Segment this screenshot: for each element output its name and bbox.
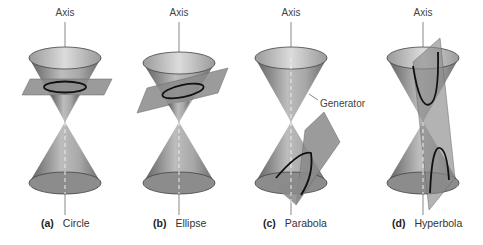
lower-rim: [29, 172, 101, 194]
panel-c-parabola: [255, 22, 340, 215]
axis-label-b: Axis: [170, 7, 189, 18]
panel-a-circle: [22, 22, 112, 215]
caption-letter: (b): [153, 217, 166, 229]
axis-label-c: Axis: [282, 7, 301, 18]
generator-leader-line: [309, 94, 318, 100]
conic-sections-diagram: [0, 0, 483, 245]
caption-name: Circle: [63, 217, 90, 229]
caption-name: Ellipse: [175, 217, 206, 229]
caption-b: (b)Ellipse: [153, 217, 206, 229]
caption-c: (c)Parabola: [263, 217, 327, 229]
upper-rim: [143, 52, 215, 74]
panel-d-hyperbola: [387, 22, 459, 215]
upper-nappe-lower-part: [168, 101, 190, 122]
caption-letter: (d): [392, 217, 405, 229]
lower-rim: [143, 172, 215, 194]
panel-b-ellipse: [137, 22, 228, 215]
axis-label-d: Axis: [414, 7, 433, 18]
caption-letter: (a): [41, 217, 54, 229]
generator-label: Generator: [320, 98, 365, 109]
caption-name: Hyperbola: [414, 217, 462, 229]
caption-letter: (c): [263, 217, 276, 229]
axis-label-a: Axis: [56, 7, 75, 18]
caption-name: Parabola: [285, 217, 327, 229]
upper-rim: [29, 47, 101, 69]
upper-nappe-lower-part: [51, 95, 79, 122]
caption-a: (a)Circle: [41, 217, 90, 229]
caption-d: (d)Hyperbola: [392, 217, 462, 229]
